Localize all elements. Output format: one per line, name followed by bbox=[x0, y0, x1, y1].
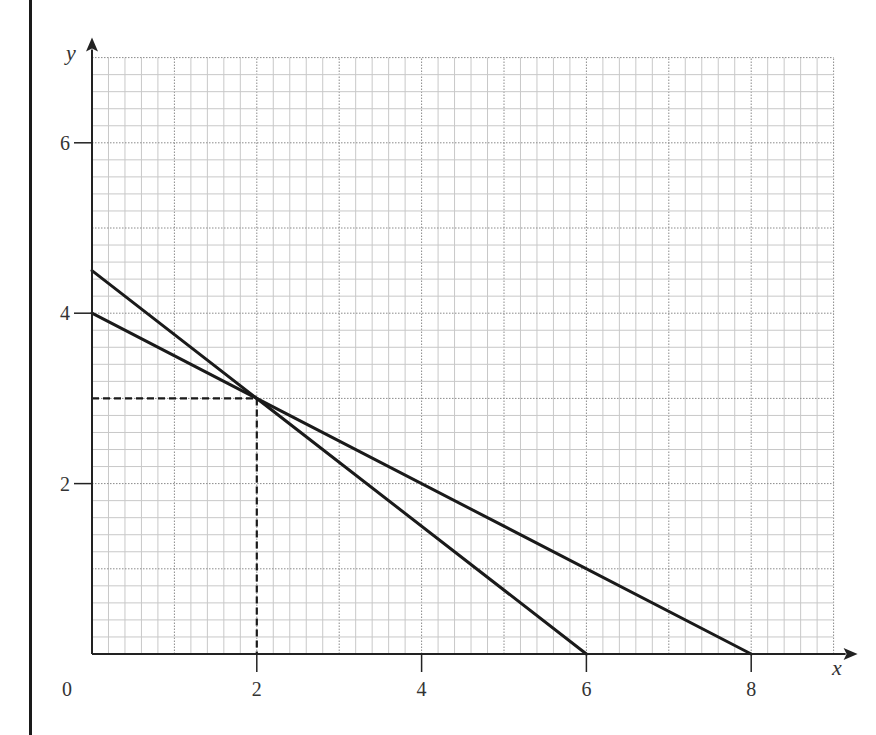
origin-label: 0 bbox=[62, 678, 72, 700]
line-chart: 2468246 x y 0 bbox=[0, 0, 876, 735]
x-axis-arrow-icon bbox=[844, 648, 858, 660]
y-axis-label: y bbox=[64, 40, 76, 65]
x-axis-label: x bbox=[831, 655, 842, 680]
y-tick-label: 6 bbox=[60, 132, 70, 154]
y-tick-label: 2 bbox=[60, 473, 70, 495]
y-tick-label: 4 bbox=[60, 302, 70, 324]
x-tick-label: 4 bbox=[417, 678, 427, 700]
x-tick-label: 8 bbox=[746, 678, 756, 700]
y-axis-arrow-icon bbox=[86, 38, 98, 52]
x-tick-label: 6 bbox=[581, 678, 591, 700]
x-tick-label: 2 bbox=[252, 678, 262, 700]
